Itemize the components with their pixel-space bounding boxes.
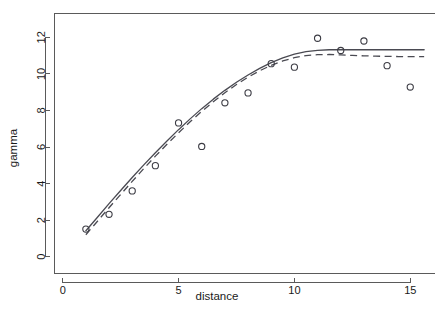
y-axis-tick-label: 2 — [35, 217, 47, 223]
plot-background — [0, 0, 435, 310]
y-axis-tick-label: 12 — [35, 31, 47, 43]
y-axis-tick-label: 8 — [35, 107, 47, 113]
x-axis-tick-label: 5 — [175, 284, 181, 296]
x-axis-tick-label: 10 — [288, 284, 300, 296]
y-axis-title: gamma — [7, 128, 19, 167]
scatter-plot: 024681012 051015 distance gamma — [0, 0, 435, 310]
x-axis-title: distance — [196, 290, 239, 302]
y-axis-tick-label: 10 — [35, 68, 47, 80]
x-axis-tick-label: 0 — [60, 284, 66, 296]
chart-container: 024681012 051015 distance gamma — [0, 0, 435, 310]
x-axis-tick-label: 15 — [404, 284, 416, 296]
y-axis-tick-label: 0 — [35, 254, 47, 260]
y-axis-tick-label: 6 — [35, 144, 47, 150]
y-axis-tick-label: 4 — [35, 181, 47, 187]
